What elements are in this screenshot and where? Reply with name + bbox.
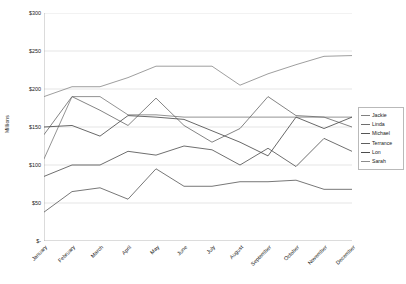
- legend-line-icon: [361, 133, 370, 134]
- legend-item-label: Linda: [372, 122, 385, 127]
- y-axis-tick-label: $250: [14, 48, 41, 54]
- legend-item-label: Lon: [372, 150, 381, 155]
- chart-legend: JackieLindaMichaelTerranceLonSarah: [358, 107, 404, 170]
- y-axis-tick-label: $100: [14, 162, 41, 168]
- legend-item-label: Terrance: [372, 141, 392, 146]
- y-axis-tick-label: $50: [14, 200, 41, 206]
- plot-area: [44, 13, 352, 241]
- legend-item-label: Sarah: [372, 159, 386, 164]
- legend-line-icon: [361, 143, 370, 144]
- legend-item-label: Jackie: [372, 113, 387, 118]
- series-line: [44, 97, 352, 143]
- x-axis-tick-labels: JanuaryFebruaryMarchAprilMayJuneJulyAugu…: [44, 241, 352, 284]
- legend-item[interactable]: Jackie: [361, 111, 401, 120]
- y-axis-tick-label: $150: [14, 124, 41, 130]
- legend-line-icon: [361, 161, 370, 162]
- series-line: [44, 169, 352, 212]
- legend-line-icon: [361, 152, 370, 153]
- legend-item[interactable]: Sarah: [361, 157, 401, 166]
- line-chart: Millions $-$50$100$150$200$250$300 Janua…: [0, 0, 406, 284]
- series-line: [44, 56, 352, 97]
- series-line: [44, 116, 352, 156]
- legend-line-icon: [361, 124, 370, 125]
- legend-item[interactable]: Michael: [361, 129, 401, 138]
- y-axis-tick-label: $300: [14, 10, 41, 16]
- y-axis-tick-label: $-: [14, 238, 41, 244]
- plot-lines: [44, 13, 352, 241]
- legend-item[interactable]: Linda: [361, 120, 401, 129]
- legend-item[interactable]: Lon: [361, 148, 401, 157]
- y-axis-tick-label: $200: [14, 86, 41, 92]
- y-axis-tick-labels: $-$50$100$150$200$250$300: [14, 0, 41, 284]
- y-axis-title-label: Millions: [4, 115, 10, 133]
- legend-line-icon: [361, 115, 370, 116]
- y-axis-title: Millions: [0, 0, 14, 248]
- legend-item[interactable]: Terrance: [361, 139, 401, 148]
- legend-item-label: Michael: [372, 131, 390, 136]
- series-line: [44, 138, 352, 176]
